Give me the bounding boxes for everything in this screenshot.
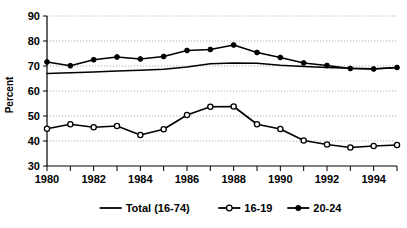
- data-point: [161, 54, 166, 59]
- y-tick-label: 70: [28, 60, 40, 72]
- data-point: [185, 48, 190, 53]
- data-point: [278, 126, 283, 131]
- y-axis-title: Percent: [4, 76, 15, 113]
- chart-container: 30405060708090 1980198219841986198819901…: [0, 0, 407, 228]
- legend-label: Total (16-74): [126, 202, 190, 214]
- data-point: [208, 47, 213, 52]
- series-line: [47, 45, 397, 69]
- x-tick-label: 1992: [315, 173, 339, 185]
- legend-marker-open-circle: [227, 205, 233, 211]
- legend-marker-filled-circle: [296, 205, 301, 210]
- x-tick-label: 1980: [35, 173, 59, 185]
- data-point: [91, 57, 96, 62]
- data-point: [184, 112, 189, 117]
- data-point: [348, 66, 353, 71]
- data-point: [325, 63, 330, 68]
- data-point: [324, 142, 329, 147]
- data-point: [394, 142, 399, 147]
- data-point: [138, 132, 143, 137]
- y-tick-label: 40: [28, 135, 40, 147]
- series-group: [44, 43, 399, 150]
- x-axis-tick-labels: 19801982198419861988199019921994: [35, 173, 387, 185]
- legend-item: 20-24: [287, 202, 342, 214]
- legend-label: 20-24: [313, 202, 342, 214]
- data-point: [44, 126, 49, 131]
- data-point: [91, 125, 96, 130]
- data-point: [161, 127, 166, 132]
- chart-legend: Total (16-74)16-1920-24: [100, 202, 343, 214]
- data-point: [138, 57, 143, 62]
- x-tick-label: 1986: [175, 173, 199, 185]
- y-axis-tick-labels: 30405060708090: [28, 10, 40, 172]
- x-tick-label: 1994: [361, 173, 386, 185]
- data-point: [208, 104, 213, 109]
- data-point: [301, 61, 306, 66]
- x-tick-label: 1982: [81, 173, 105, 185]
- x-axis: [47, 166, 397, 171]
- y-tick-label: 60: [28, 85, 40, 97]
- data-point: [301, 138, 306, 143]
- data-point: [231, 43, 236, 48]
- x-tick-label: 1990: [268, 173, 292, 185]
- line-chart: 30405060708090 1980198219841986198819901…: [0, 0, 407, 228]
- data-point: [114, 123, 119, 128]
- series-16-19: [44, 104, 399, 150]
- data-point: [254, 122, 259, 127]
- data-point: [115, 55, 120, 60]
- data-point: [45, 60, 50, 65]
- data-point: [395, 65, 400, 70]
- data-point: [278, 55, 283, 60]
- data-point: [255, 50, 260, 55]
- data-point: [371, 67, 376, 72]
- legend-item: 16-19: [218, 202, 272, 214]
- legend-label: 16-19: [244, 202, 272, 214]
- data-point: [68, 122, 73, 127]
- y-axis-title-label: Percent: [4, 76, 15, 113]
- data-point: [68, 63, 73, 68]
- y-tick-label: 90: [28, 10, 40, 22]
- legend-item: Total (16-74): [100, 202, 190, 214]
- y-tick-label: 50: [28, 110, 40, 122]
- x-tick-label: 1988: [221, 173, 245, 185]
- y-tick-label: 80: [28, 35, 40, 47]
- x-tick-label: 1984: [128, 173, 153, 185]
- data-point: [371, 143, 376, 148]
- series-20-24: [45, 43, 400, 72]
- y-tick-label: 30: [28, 160, 40, 172]
- y-axis: [43, 16, 47, 166]
- data-point: [348, 145, 353, 150]
- grid-lines: [47, 16, 397, 141]
- data-point: [231, 104, 236, 109]
